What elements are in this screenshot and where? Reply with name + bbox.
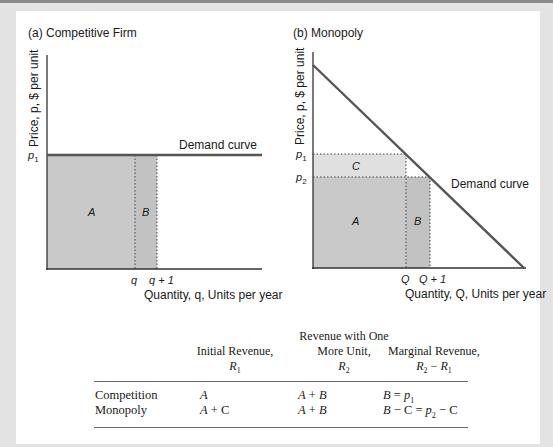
panel-a-q-plus-1-tick: q + 1	[149, 274, 174, 286]
panel-b-Q-tick: Q	[401, 273, 410, 285]
cell-r1: A	[200, 388, 208, 403]
panel-a-region-a-label: A	[87, 206, 95, 218]
row-label: Competition	[95, 388, 158, 403]
cell-mr: B − C = p2 − C	[383, 403, 457, 420]
panel-a-title: (a) Competitive Firm	[28, 26, 137, 40]
panel-a-q-tick: q	[131, 274, 138, 286]
revenue-table: Initial Revenue, R1 Revenue with One Mor…	[94, 328, 468, 428]
header-marginal-revenue: Marginal Revenue, R2 − R1	[369, 344, 499, 378]
panel-a-y-axis-label: Price, p, $ per unit	[27, 49, 41, 147]
table-header: Initial Revenue, R1 Revenue with One Mor…	[94, 328, 468, 382]
panel-b-p2-tick: p2	[295, 171, 307, 186]
panel-b-region-a-label: A	[351, 215, 359, 227]
header-r2-minus-r1: R2 − R1	[369, 359, 499, 378]
panel-b: (b) Monopoly Demand curve Price, p, $ pe…	[293, 26, 546, 301]
region-a-monopoly	[313, 177, 406, 268]
panel-a-region-b-label: B	[142, 206, 149, 218]
panel-b-region-b-label: B	[414, 215, 421, 227]
table-row-monopoly: Monopoly A + C A + B B − C = p2 − C	[94, 403, 468, 418]
panel-b-Q-plus-1-tick: Q + 1	[419, 273, 446, 285]
panel-b-demand-label: Demand curve	[451, 177, 529, 191]
table-body: Competition A A + B B = p1 Monopoly A + …	[94, 382, 468, 428]
cell-r2: A + B	[298, 388, 327, 403]
panel-b-p1-tick: p1	[295, 148, 307, 163]
row-label: Monopoly	[95, 403, 147, 418]
panel-a: (a) Competitive Firm Demand curve Price,…	[27, 26, 283, 302]
cell-r2: A + B	[298, 403, 327, 418]
panel-b-x-axis-label: Quantity, Q, Units per year	[405, 287, 546, 301]
cell-r1: A + C	[200, 403, 229, 418]
panel-a-x-axis-label: Quantity, q, Units per year	[144, 288, 283, 302]
panel-b-region-c-label: C	[352, 160, 360, 172]
table-row-competition: Competition A A + B B = p1	[94, 388, 468, 403]
panel-a-p1-tick: p1	[27, 149, 39, 164]
panel-a-demand-label: Demand curve	[179, 138, 257, 152]
panel-b-y-axis-label: Price, p, $ per unit	[293, 47, 307, 145]
panel-b-title: (b) Monopoly	[293, 26, 363, 40]
